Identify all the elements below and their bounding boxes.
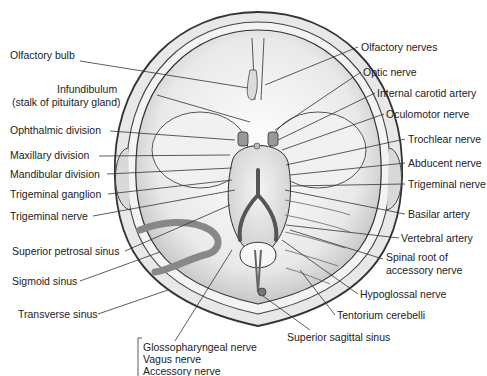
label-superior-sagittal-sinus: Superior sagittal sinus	[287, 331, 390, 343]
label-accessory-nerve: Accessory nerve	[143, 365, 221, 376]
label-vagus-nerve: Vagus nerve	[143, 353, 201, 365]
label-infundibulum-sub: (stalk of pituitary gland)	[12, 96, 121, 108]
label-olfactory-bulb: Olfactory bulb	[10, 49, 75, 61]
label-spinal-root-accessory-sub: accessory nerve	[386, 264, 462, 276]
label-sigmoid-sinus: Sigmoid sinus	[12, 275, 77, 287]
label-tentorium-cerebelli: Tentorium cerebelli	[337, 309, 425, 321]
label-transverse-sinus: Transverse sinus	[18, 308, 98, 320]
label-abducent-nerve: Abducent nerve	[408, 157, 482, 169]
label-superior-petrosal-sinus: Superior petrosal sinus	[12, 245, 119, 257]
label-oculomotor-nerve: Oculomotor nerve	[386, 108, 469, 120]
label-optic-nerve: Optic nerve	[363, 66, 417, 78]
label-infundibulum: Infundibulum	[57, 83, 117, 95]
label-trochlear-nerve: Trochlear nerve	[408, 133, 481, 145]
label-basilar-artery: Basilar artery	[408, 208, 470, 220]
label-maxillary-division: Maxillary division	[10, 149, 89, 161]
label-vertebral-artery: Vertebral artery	[401, 232, 473, 244]
label-glossopharyngeal-nerve: Glossopharyngeal nerve	[143, 341, 257, 353]
label-ophthalmic-division: Ophthalmic division	[10, 124, 101, 136]
label-trigeminal-nerve-left: Trigeminal nerve	[10, 210, 88, 222]
foramen-magnum	[240, 242, 276, 268]
cranial-floor-diagram: Olfactory bulb Infundibulum (stalk of pi…	[0, 0, 487, 376]
label-olfactory-nerves: Olfactory nerves	[361, 41, 437, 53]
label-hypoglossal-nerve: Hypoglossal nerve	[360, 288, 446, 300]
label-trigeminal-nerve-right: Trigeminal nerve	[408, 178, 486, 190]
label-trigeminal-ganglion: Trigeminal ganglion	[10, 188, 101, 200]
label-internal-carotid-artery: Internal carotid artery	[377, 87, 476, 99]
label-mandibular-division: Mandibular division	[10, 168, 100, 180]
label-spinal-root-accessory: Spinal root of	[386, 251, 448, 263]
superior-sagittal-sinus-mark	[258, 288, 266, 296]
